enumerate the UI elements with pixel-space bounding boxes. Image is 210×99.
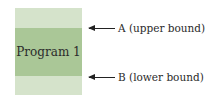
lower-bound-arrow-icon [89,77,115,78]
upper-bound-label: A (upper bound) [118,22,205,34]
upper-bound-arrow-icon [89,28,115,29]
program-box: Program 1 [15,8,82,95]
upper-light-band [15,8,82,28]
program-label: Program 1 [16,45,80,59]
lower-bound-label: B (lower bound) [118,71,204,83]
program-band: Program 1 [15,28,82,76]
lower-light-band [15,76,82,95]
